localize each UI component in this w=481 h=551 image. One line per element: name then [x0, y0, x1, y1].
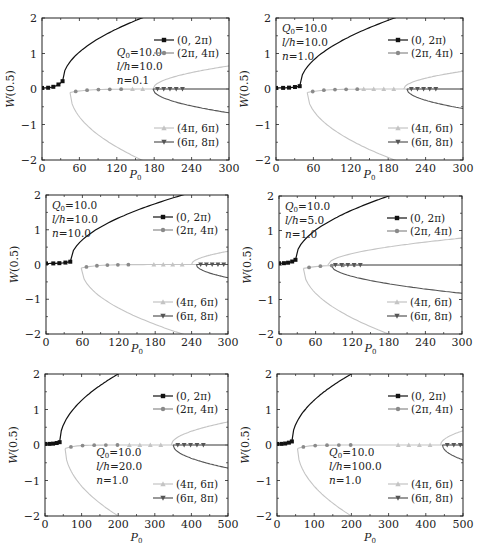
square-marker	[46, 86, 50, 90]
x-axis-title: P0	[130, 342, 143, 356]
legend-label: (2π, 4π)	[410, 225, 452, 237]
x-tick-label: 60	[309, 336, 323, 349]
x-tick-label: 500	[218, 518, 239, 531]
circle-marker	[97, 88, 101, 92]
markers	[277, 258, 363, 269]
circle-marker	[313, 444, 317, 448]
parameter-annotation: Q0=10.0l/h=20.0n=1.0	[96, 446, 142, 486]
legend-label: (0, 2π)	[176, 390, 211, 402]
square-marker	[293, 258, 297, 262]
circle-marker	[116, 263, 120, 267]
circle-marker	[106, 263, 110, 267]
square-marker	[396, 38, 400, 42]
circle-marker	[330, 264, 334, 268]
square-marker	[51, 261, 55, 265]
series-line-4pi-6pi	[171, 422, 228, 445]
square-marker	[51, 442, 55, 446]
x-tick-label: 60	[306, 162, 320, 175]
square-marker	[51, 85, 55, 89]
legend-label: (0, 2π)	[411, 34, 446, 46]
square-marker	[57, 261, 61, 265]
legend-item: (6π, 8π)	[154, 136, 219, 148]
legend-item: (6π, 8π)	[153, 310, 218, 322]
x-axis-title: P0	[364, 342, 377, 356]
x-tick-label: 400	[415, 518, 436, 531]
legend-label: (0, 2π)	[177, 34, 212, 46]
circle-marker	[162, 51, 166, 55]
parameter-line: n=1.0	[329, 474, 361, 486]
parameter-line: Q0=10.0	[329, 446, 374, 460]
legend-label: (6π, 8π)	[176, 310, 218, 322]
legend-item: (6π, 8π)	[387, 310, 452, 322]
parameter-line: Q0=10.0	[52, 199, 97, 213]
x-tick-label: 400	[181, 518, 202, 531]
series-line-6pi-8pi	[407, 89, 463, 109]
circle-marker	[69, 445, 73, 449]
series-line-6pi-8pi	[443, 445, 464, 460]
square-marker	[287, 86, 291, 90]
y-tick-label: 2	[267, 190, 274, 203]
legend-item: (0, 2π)	[153, 390, 211, 402]
legend-label: (6π, 8π)	[411, 136, 453, 148]
parameter-annotation: Q0=10.0l/h=10.0n=1.0	[282, 22, 328, 62]
legend-label: (2π, 4π)	[411, 403, 453, 415]
y-axis-title: W(0.5)	[8, 246, 21, 283]
panel-a: 060120180240300−2−1012W(0.5)P0Q0=10.0l/h…	[4, 12, 240, 182]
legend-label: (2π, 4π)	[176, 403, 218, 415]
panel-d: 060120180240300−2−1012W(0.5)P0Q0=10.0l/h…	[241, 190, 473, 356]
legend-label: (4π, 6π)	[411, 478, 453, 490]
legend: (0, 2π)(2π, 4π)(4π, 6π)(6π, 8π)	[153, 211, 218, 322]
y-axis-title: W(0.5)	[4, 70, 17, 107]
square-marker	[283, 442, 287, 446]
legend: (0, 2π)(2π, 4π)(4π, 6π)(6π, 8π)	[153, 390, 218, 504]
series-line-4pi-6pi	[404, 71, 463, 89]
series-line-4pi-6pi	[328, 238, 462, 265]
parameter-line: l/h=20.0	[96, 460, 142, 472]
parameter-line: l/h=5.0	[285, 214, 324, 226]
legend-label: (2π, 4π)	[177, 47, 219, 59]
series-line-2pi-4pi-lower	[70, 93, 152, 165]
x-tick-label: 240	[181, 162, 202, 175]
legend-item: (0, 2π)	[153, 211, 211, 223]
legend-label: (4π, 6π)	[410, 296, 452, 308]
parameter-line: n=10.0	[52, 227, 91, 239]
markers	[40, 79, 185, 93]
x-tick-label: 300	[218, 336, 239, 349]
panel-b: 060120180240300−2−1012W(0.5)P0Q0=10.0l/h…	[238, 12, 474, 182]
x-tick-label: 0	[273, 162, 280, 175]
legend-item: (4π, 6π)	[154, 122, 219, 134]
legend-item: (4π, 6π)	[153, 296, 218, 308]
legend-item: (6π, 8π)	[153, 492, 218, 504]
legend-item: (2π, 4π)	[387, 225, 452, 237]
series-line-0-2pi	[45, 370, 126, 444]
legend-item: (0, 2π)	[388, 34, 446, 46]
square-marker	[162, 38, 166, 42]
circle-marker	[396, 407, 400, 411]
circle-marker	[81, 444, 85, 448]
circle-marker	[307, 265, 311, 269]
x-tick-label: 300	[144, 518, 165, 531]
parameter-line: l/h=100.0	[329, 460, 382, 472]
y-tick-label: −2	[256, 510, 272, 523]
square-marker	[161, 215, 165, 219]
x-tick-label: 240	[415, 336, 436, 349]
parameter-line: n=0.1	[117, 74, 149, 86]
square-marker	[68, 260, 72, 264]
square-marker	[281, 86, 285, 90]
circle-marker	[74, 90, 78, 94]
legend-label: (2π, 4π)	[176, 224, 218, 236]
circle-marker	[396, 51, 400, 55]
legend-item: (2π, 4π)	[153, 224, 218, 236]
parameter-annotation: Q0=10.0l/h=10.0n=0.1	[117, 46, 163, 86]
parameter-line: Q0=10.0	[96, 446, 141, 460]
y-tick-label: −1	[21, 119, 37, 132]
x-tick-label: 60	[75, 336, 89, 349]
y-tick-label: −2	[24, 510, 40, 523]
parameter-line: n=1.0	[285, 228, 317, 240]
legend-label: (4π, 6π)	[177, 122, 219, 134]
y-tick-label: 1	[34, 224, 41, 237]
x-tick-label: 0	[39, 162, 46, 175]
square-marker	[63, 261, 67, 265]
x-tick-label: 500	[453, 518, 474, 531]
square-marker	[290, 439, 294, 443]
